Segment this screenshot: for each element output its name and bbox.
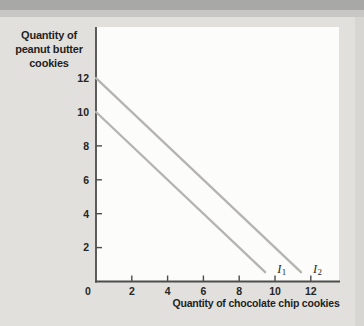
- y-axis-title-line1: Quantity of: [6, 28, 92, 42]
- y-tick-label-8: 8: [83, 140, 89, 152]
- x-tick-label-0: 0: [85, 285, 91, 297]
- x-tick-label-10: 10: [269, 285, 281, 297]
- x-tick-label-12: 12: [305, 285, 317, 297]
- x-axis-title: Quantity of chocolate chip cookies: [150, 297, 362, 309]
- y-tick-label-12: 12: [77, 72, 89, 84]
- y-axis-title-line2: peanut butter: [6, 42, 92, 56]
- y-tick-label-4: 4: [83, 208, 89, 220]
- y-axis-title: Quantity of peanut butter cookies: [6, 28, 92, 70]
- textbook-figure: 02468101224681012I1I2 Quantity of peanut…: [0, 0, 364, 326]
- y-tick-label-2: 2: [83, 241, 89, 253]
- x-tick-label-6: 6: [200, 285, 206, 297]
- x-tick-label-2: 2: [129, 285, 135, 297]
- x-tick-label-8: 8: [236, 285, 242, 297]
- plot-area: [96, 27, 339, 282]
- y-tick-label-10: 10: [77, 106, 89, 118]
- x-tick-label-4: 4: [165, 285, 171, 297]
- y-axis-title-line3: cookies: [6, 56, 92, 70]
- y-tick-label-6: 6: [83, 174, 89, 186]
